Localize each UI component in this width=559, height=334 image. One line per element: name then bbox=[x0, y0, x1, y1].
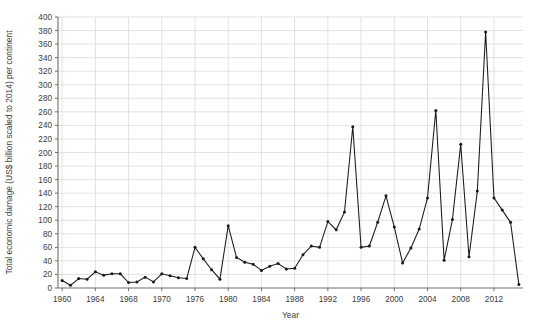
y-tick-label: 220 bbox=[38, 135, 52, 144]
data-point bbox=[443, 259, 446, 262]
y-tick-label: 140 bbox=[38, 189, 52, 198]
data-point bbox=[393, 226, 396, 229]
data-point bbox=[210, 268, 213, 271]
data-point bbox=[426, 196, 429, 199]
data-point bbox=[368, 245, 371, 248]
data-point bbox=[376, 221, 379, 224]
data-point bbox=[61, 279, 64, 282]
data-point bbox=[177, 276, 180, 279]
data-point bbox=[235, 256, 238, 259]
y-tick-label: 120 bbox=[38, 203, 52, 212]
data-point bbox=[509, 221, 512, 224]
y-tick-label: 0 bbox=[47, 284, 52, 293]
data-point bbox=[102, 274, 105, 277]
data-point bbox=[268, 265, 271, 268]
data-point bbox=[144, 276, 147, 279]
data-point bbox=[135, 280, 138, 283]
data-point bbox=[110, 272, 113, 275]
data-point bbox=[69, 284, 72, 287]
data-point bbox=[468, 255, 471, 258]
data-point bbox=[310, 245, 313, 248]
data-point bbox=[260, 269, 263, 272]
data-point bbox=[301, 253, 304, 256]
data-point bbox=[127, 281, 130, 284]
data-point bbox=[360, 246, 363, 249]
x-tick-label: 2008 bbox=[452, 295, 471, 304]
data-point bbox=[335, 228, 338, 231]
data-point bbox=[169, 274, 172, 277]
data-point bbox=[409, 247, 412, 250]
x-tick-label: 1988 bbox=[286, 295, 305, 304]
data-point bbox=[94, 270, 97, 273]
data-point bbox=[384, 194, 387, 197]
y-tick-label: 400 bbox=[38, 13, 52, 22]
data-point bbox=[517, 283, 520, 286]
data-point bbox=[418, 228, 421, 231]
data-point bbox=[152, 280, 155, 283]
data-point bbox=[160, 272, 163, 275]
y-tick-label: 340 bbox=[38, 54, 52, 63]
data-point bbox=[476, 190, 479, 193]
x-tick-label: 1976 bbox=[186, 295, 205, 304]
data-point bbox=[194, 246, 197, 249]
x-tick-label: 1960 bbox=[53, 295, 72, 304]
data-point bbox=[185, 277, 188, 280]
y-tick-label: 100 bbox=[38, 216, 52, 225]
data-point bbox=[202, 257, 205, 260]
y-tick-label: 280 bbox=[38, 94, 52, 103]
data-point bbox=[86, 278, 89, 281]
y-tick-label: 160 bbox=[38, 176, 52, 185]
data-point bbox=[459, 143, 462, 146]
chart-figure: 0204060801001201401601802002202402602803… bbox=[0, 0, 559, 334]
data-point bbox=[77, 277, 80, 280]
data-point bbox=[252, 263, 255, 266]
data-point bbox=[351, 125, 354, 128]
data-point bbox=[434, 109, 437, 112]
x-tick-label: 2004 bbox=[418, 295, 437, 304]
data-point bbox=[227, 224, 230, 227]
data-point bbox=[243, 261, 246, 264]
y-tick-label: 300 bbox=[38, 81, 52, 90]
x-tick-label: 1964 bbox=[86, 295, 105, 304]
data-point bbox=[501, 209, 504, 212]
y-tick-label: 320 bbox=[38, 67, 52, 76]
y-tick-label: 260 bbox=[38, 108, 52, 117]
y-tick-label: 20 bbox=[43, 270, 53, 279]
y-axis-title: Total economic damage (US$ billion scale… bbox=[4, 30, 14, 275]
data-point bbox=[484, 30, 487, 33]
x-tick-label: 1970 bbox=[153, 295, 172, 304]
data-point bbox=[293, 267, 296, 270]
x-tick-label: 2012 bbox=[485, 295, 504, 304]
x-axis-title: Year bbox=[282, 310, 299, 320]
y-tick-label: 60 bbox=[43, 243, 53, 252]
data-point bbox=[277, 262, 280, 265]
x-tick-label: 1992 bbox=[319, 295, 338, 304]
data-point bbox=[492, 196, 495, 199]
x-tick-label: 2000 bbox=[385, 295, 404, 304]
y-tick-label: 200 bbox=[38, 149, 52, 158]
x-tick-label: 1980 bbox=[219, 295, 238, 304]
data-point bbox=[119, 272, 122, 275]
data-point bbox=[326, 220, 329, 223]
y-tick-label: 180 bbox=[38, 162, 52, 171]
x-tick-label: 1984 bbox=[252, 295, 271, 304]
economic-damage-line-chart: 0204060801001201401601802002202402602803… bbox=[0, 0, 559, 334]
data-point bbox=[318, 246, 321, 249]
data-point bbox=[401, 261, 404, 264]
y-tick-label: 40 bbox=[43, 257, 53, 266]
y-tick-label: 80 bbox=[43, 230, 53, 239]
x-tick-label: 1968 bbox=[119, 295, 138, 304]
y-tick-label: 240 bbox=[38, 121, 52, 130]
y-tick-label: 360 bbox=[38, 40, 52, 49]
data-point bbox=[285, 268, 288, 271]
data-point bbox=[218, 278, 221, 281]
data-point bbox=[343, 211, 346, 214]
x-tick-label: 1996 bbox=[352, 295, 371, 304]
y-tick-label: 380 bbox=[38, 27, 52, 36]
data-point bbox=[451, 218, 454, 221]
